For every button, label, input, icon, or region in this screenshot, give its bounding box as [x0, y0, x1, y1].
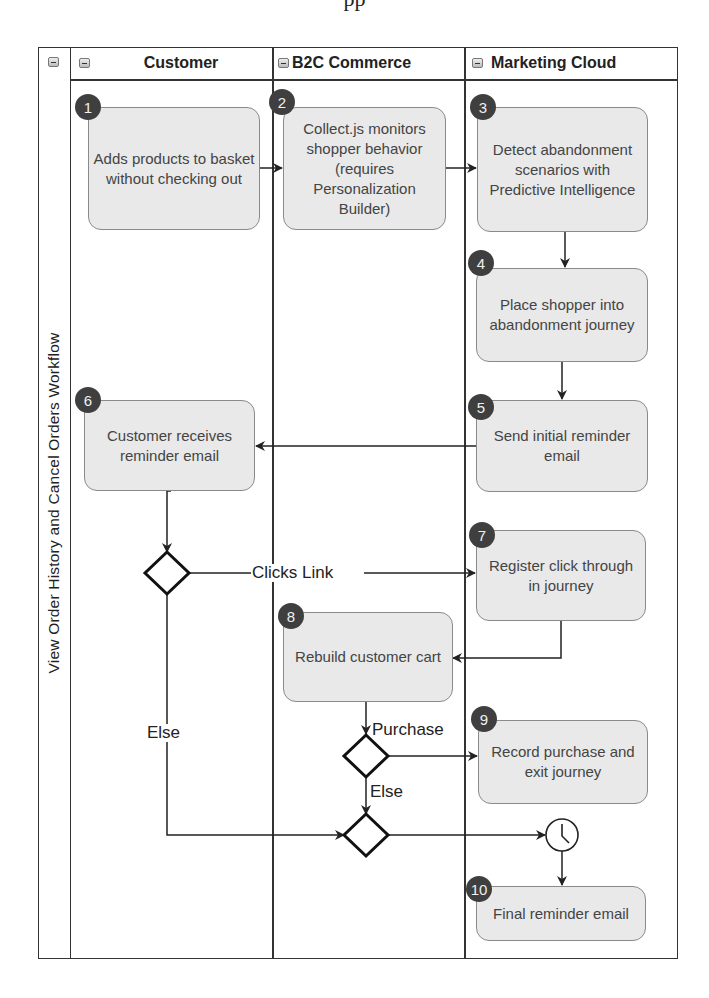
edge-label-else: Else: [146, 724, 181, 742]
step-text: Collect.js monitors shopper behavior (re…: [288, 119, 441, 219]
step-text: Detect abandonment scenarios with Predic…: [482, 140, 643, 200]
step-box-7[interactable]: Register click through in journey: [476, 530, 646, 621]
timer-clock-icon: [546, 819, 578, 851]
step-number-badge: 10: [466, 876, 492, 902]
step-text: Adds products to basket without checking…: [93, 149, 255, 189]
gateway-diamonds: [145, 552, 388, 856]
step-box-3[interactable]: Detect abandonment scenarios with Predic…: [477, 107, 648, 232]
step-box-2[interactable]: Collect.js monitors shopper behavior (re…: [283, 107, 446, 230]
step-number-badge: 6: [75, 387, 101, 413]
step-box-5[interactable]: Send initial reminder email: [476, 400, 648, 492]
step-box-4[interactable]: Place shopper into abandonment journey: [476, 268, 648, 362]
step-text: Register click through in journey: [481, 556, 641, 596]
step-number-badge: 4: [468, 250, 494, 276]
edge-label-else: Else: [369, 783, 404, 801]
step-text: Send initial reminder email: [481, 426, 643, 466]
step-box-6[interactable]: Customer receives reminder email: [84, 400, 255, 491]
step-text: Final reminder email: [493, 904, 629, 924]
step-box-9[interactable]: Record purchase and exit journey: [478, 720, 648, 804]
step-number-badge: 9: [471, 706, 497, 732]
step-number-badge: 3: [470, 94, 496, 120]
edge-label-clicks-link: Clicks Link: [251, 564, 334, 582]
step-number-badge: 1: [75, 94, 101, 120]
edge-label-purchase: Purchase: [371, 721, 445, 739]
step-box-8[interactable]: Rebuild customer cart: [283, 612, 453, 702]
step-box-10[interactable]: Final reminder email: [476, 886, 646, 941]
step-text: Place shopper into abandonment journey: [481, 295, 643, 335]
step-box-1[interactable]: Adds products to basket without checking…: [88, 107, 260, 230]
step-number-badge: 7: [469, 522, 495, 548]
step-number-badge: 5: [468, 394, 494, 420]
step-text: Rebuild customer cart: [295, 647, 441, 667]
step-text: Record purchase and exit journey: [483, 742, 643, 782]
step-text: Customer receives reminder email: [89, 426, 250, 466]
step-number-badge: 2: [269, 89, 295, 115]
step-number-badge: 8: [278, 603, 304, 629]
